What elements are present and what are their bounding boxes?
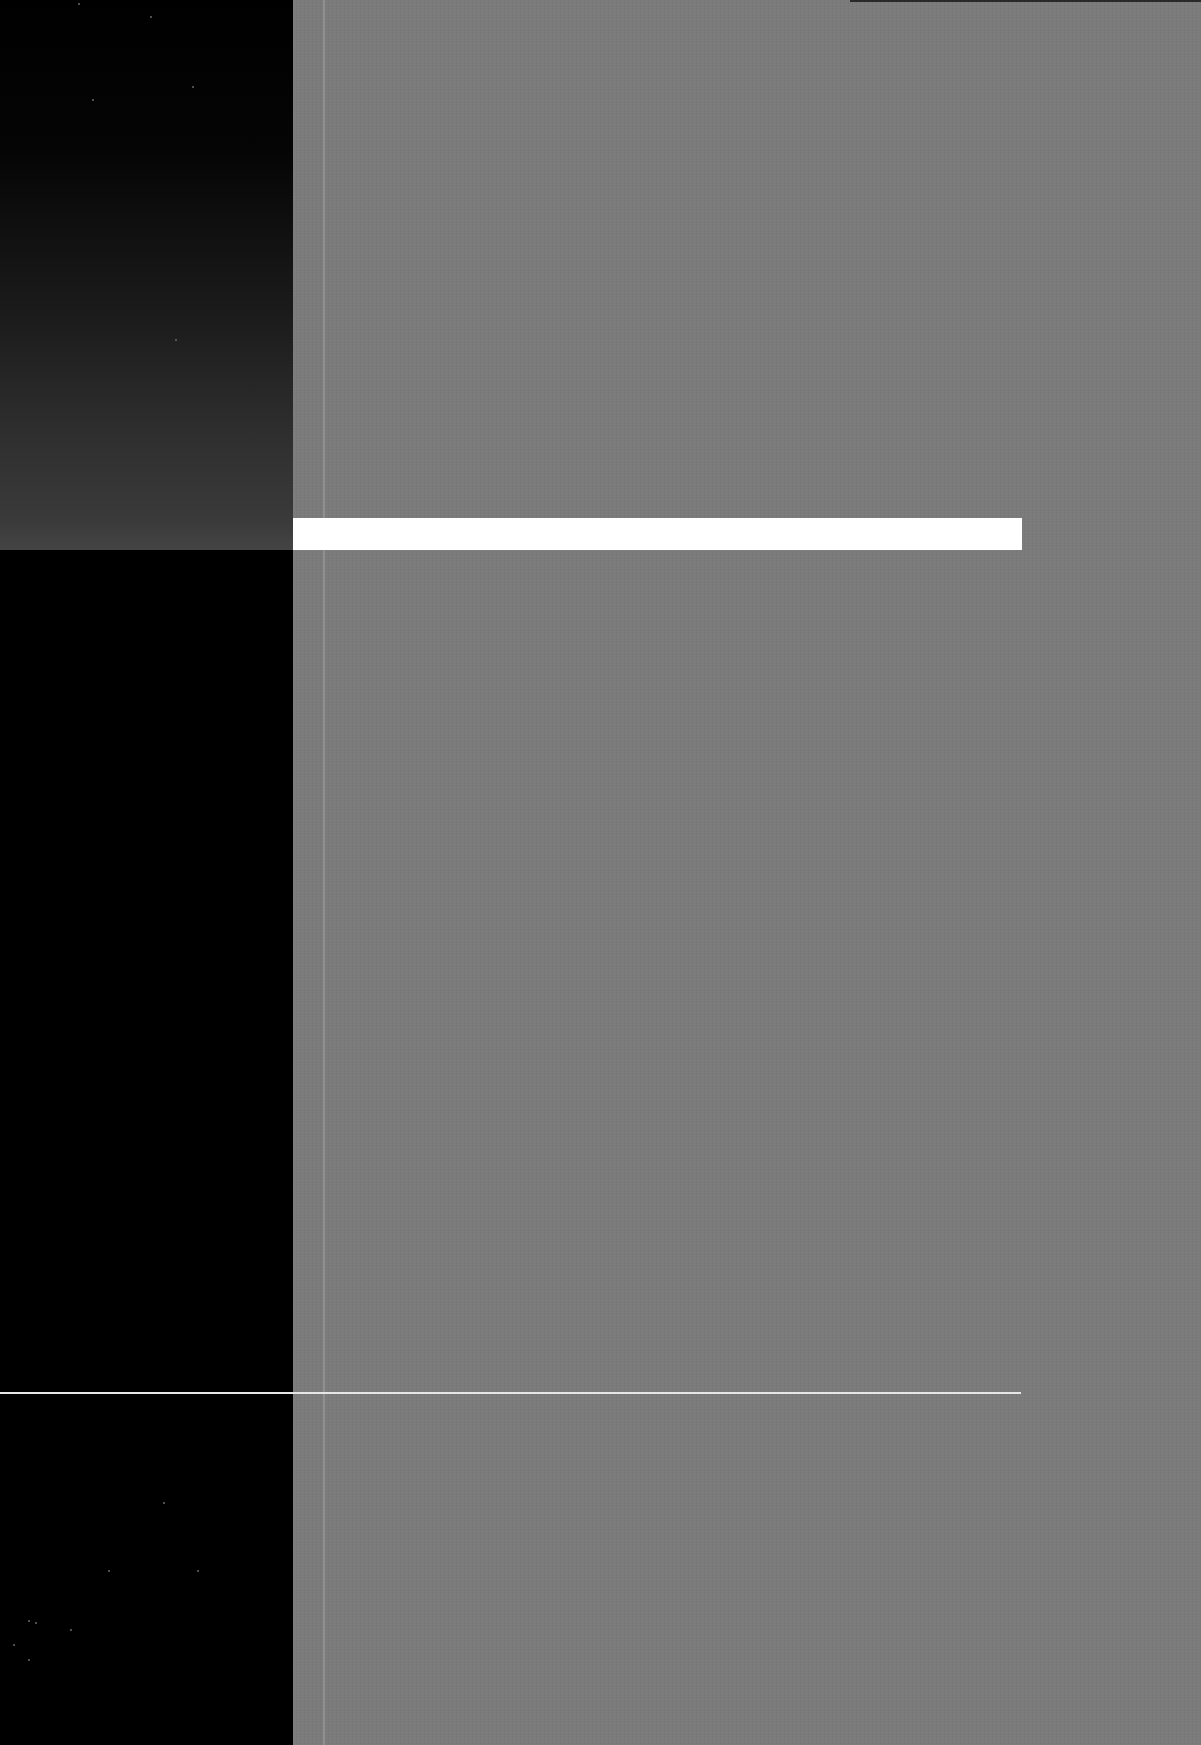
speck (13, 1644, 15, 1646)
speck (163, 1502, 165, 1504)
speck (92, 99, 94, 101)
speck (35, 1622, 37, 1624)
speck (150, 16, 152, 18)
speck (108, 1570, 110, 1572)
speck (78, 3, 80, 5)
cover-canvas (0, 0, 1201, 1745)
white-horizontal-bar (293, 518, 1022, 550)
speck (70, 1629, 72, 1631)
speck (28, 1620, 30, 1622)
speck (175, 339, 177, 341)
thin-horizontal-rule (0, 1392, 1021, 1394)
top-edge-shadow (850, 0, 1201, 2)
left-black-band (0, 0, 293, 1745)
left-band-gradient (0, 0, 293, 550)
speck (197, 1570, 199, 1572)
speck (28, 1659, 30, 1661)
vertical-rule (323, 0, 325, 1745)
speck (192, 86, 194, 88)
